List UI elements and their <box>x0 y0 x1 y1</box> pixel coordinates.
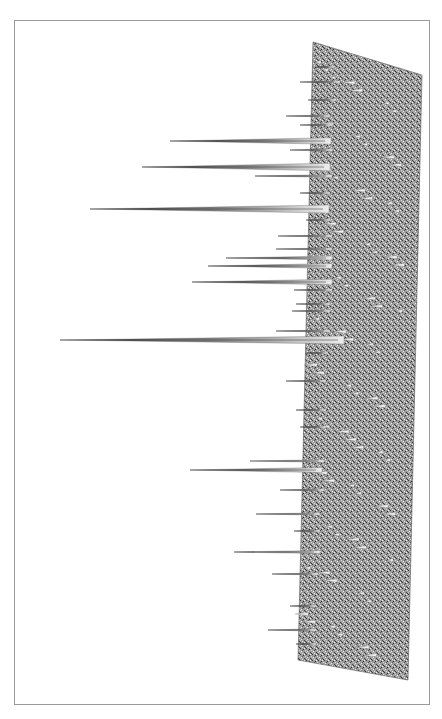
spike-peak <box>278 235 332 237</box>
spike-peak <box>250 460 324 463</box>
spike-peak <box>256 513 320 515</box>
surface-peak-figure <box>0 0 442 719</box>
figure-caption <box>433 60 441 660</box>
spike-peak <box>226 256 332 260</box>
spike-peak <box>234 550 320 553</box>
spike-peak <box>142 163 330 171</box>
spike-peak <box>170 138 331 145</box>
spike-peak <box>268 629 316 631</box>
spike-peak <box>255 175 332 178</box>
spike-peak <box>286 115 330 117</box>
surface-plane <box>295 42 422 680</box>
spike-peak <box>276 248 332 250</box>
spike-peak <box>190 467 322 472</box>
spike-peak <box>192 279 332 285</box>
spike-peak <box>208 264 332 269</box>
spike-peak <box>276 330 330 332</box>
spike-peak <box>60 336 344 344</box>
caption-text <box>433 60 441 660</box>
spike-peak <box>90 205 329 213</box>
spike-peak <box>272 573 318 575</box>
